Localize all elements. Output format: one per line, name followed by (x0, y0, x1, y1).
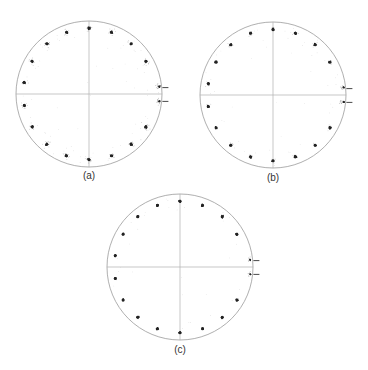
cluster-center (88, 27, 91, 30)
cluster-halo-point (206, 83, 207, 84)
cluster-halo-point (22, 107, 23, 108)
edge-cluster-point (341, 102, 342, 103)
cluster-halo-point (85, 158, 86, 159)
noise-point (131, 222, 132, 223)
cluster-halo-point (108, 33, 109, 34)
noise-point (190, 322, 191, 323)
panel-label-a: (a) (74, 170, 104, 181)
noise-point (244, 151, 245, 152)
edge-cluster-point (157, 86, 158, 87)
cluster-halo-point (65, 29, 66, 30)
noise-point (335, 77, 336, 78)
cluster-halo-point (67, 35, 68, 36)
cluster-halo-point (250, 154, 251, 155)
cluster-halo-point (128, 144, 129, 145)
cluster-halo-point (31, 125, 32, 126)
noise-point (66, 148, 67, 149)
noise-point (39, 61, 40, 62)
cluster-halo-point (133, 143, 134, 144)
noise-point (177, 210, 178, 211)
cluster-halo-point (50, 142, 51, 143)
cluster-center (122, 233, 125, 236)
cluster-center (235, 298, 238, 301)
noise-point (291, 53, 292, 54)
noise-point (85, 156, 86, 157)
noise-point (317, 40, 318, 41)
cluster-halo-point (271, 159, 272, 160)
cluster-halo-point (29, 126, 30, 127)
noise-point (330, 104, 331, 105)
cluster-center (179, 331, 182, 334)
cluster-center (65, 154, 68, 157)
noise-point (74, 37, 75, 38)
cluster-center (88, 158, 91, 161)
cluster-halo-point (292, 34, 293, 35)
cluster-center (45, 143, 48, 146)
noise-point (123, 45, 124, 46)
cluster-halo-point (22, 106, 23, 107)
noise-point (129, 244, 130, 245)
noise-point (234, 148, 235, 149)
cluster-center (156, 327, 159, 330)
edge-cluster-point (156, 87, 157, 88)
noise-point (148, 130, 149, 131)
noise-point (135, 124, 136, 125)
cluster-halo-point (24, 107, 25, 108)
cluster-halo-point (272, 27, 273, 28)
noise-point (293, 28, 294, 29)
noise-point (108, 160, 109, 161)
noise-point (216, 55, 217, 56)
cluster-halo-point (293, 155, 294, 156)
noise-point (229, 217, 230, 218)
cluster-halo-point (30, 61, 31, 62)
cluster-halo-point (331, 126, 332, 127)
noise-point (93, 153, 94, 154)
noise-point (182, 328, 183, 329)
noise-point (141, 50, 142, 51)
noise-point (189, 322, 190, 323)
cluster-halo-point (49, 142, 50, 143)
edge-cluster-core (160, 85, 161, 86)
cluster-halo-point (228, 43, 229, 44)
noise-point (27, 77, 28, 78)
noise-point (37, 125, 38, 126)
cluster-center (207, 82, 210, 85)
noise-point (251, 58, 252, 59)
cluster-halo-point (205, 86, 206, 87)
edge-cluster-core (250, 260, 251, 261)
noise-point (113, 68, 114, 69)
cluster-halo-point (67, 159, 68, 160)
cluster-center (23, 104, 26, 107)
noise-point (266, 47, 267, 48)
cluster-halo-point (26, 103, 27, 104)
noise-point (317, 52, 318, 53)
cluster-center (221, 316, 224, 319)
noise-point (238, 141, 239, 142)
noise-point (40, 44, 41, 45)
cluster-halo-point (144, 64, 145, 65)
cluster-halo-point (45, 141, 46, 142)
cluster-center (215, 61, 218, 64)
cluster-halo-point (32, 59, 33, 60)
cluster-halo-point (44, 43, 45, 44)
cluster-halo-point (145, 58, 146, 59)
cluster-halo-point (69, 156, 70, 157)
cluster-halo-point (48, 141, 49, 142)
noise-point (337, 74, 338, 75)
cluster-halo-point (294, 158, 295, 159)
noise-point (206, 294, 207, 295)
cluster-center (272, 159, 275, 162)
cluster-halo-point (328, 63, 329, 64)
cluster-halo-point (233, 144, 234, 145)
cluster-halo-point (128, 40, 129, 41)
cluster-halo-point (133, 146, 134, 147)
noise-point (134, 50, 135, 51)
edge-cluster-core (158, 86, 159, 87)
noise-point (132, 272, 133, 273)
edge-cluster-point (156, 102, 157, 103)
noise-point (126, 81, 127, 82)
edge-cluster-point (341, 88, 342, 89)
noise-point (71, 146, 72, 147)
cluster-halo-point (68, 30, 69, 31)
cluster-halo-point (49, 42, 50, 43)
